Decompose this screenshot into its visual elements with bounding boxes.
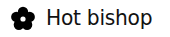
flower-icon <box>10 6 36 32</box>
label-text: Hot bishop <box>46 4 152 32</box>
hot-bishop-label: Hot bishop <box>0 0 170 37</box>
